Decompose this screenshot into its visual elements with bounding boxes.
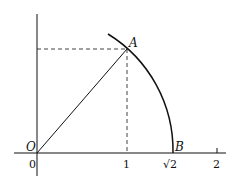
tick-label-0: 0 [29, 158, 36, 171]
segment-oa [37, 49, 127, 153]
tick-label-2: 2 [213, 158, 220, 171]
tick-label-1: 1 [123, 158, 130, 171]
arc-ab [108, 34, 173, 153]
label-b: B [174, 140, 184, 154]
label-o: O [26, 140, 36, 154]
diagram-canvas: O 0 A B 1 √2 2 [0, 0, 239, 187]
tick-label-sqrt2: √2 [163, 158, 177, 171]
label-a: A [128, 36, 138, 50]
